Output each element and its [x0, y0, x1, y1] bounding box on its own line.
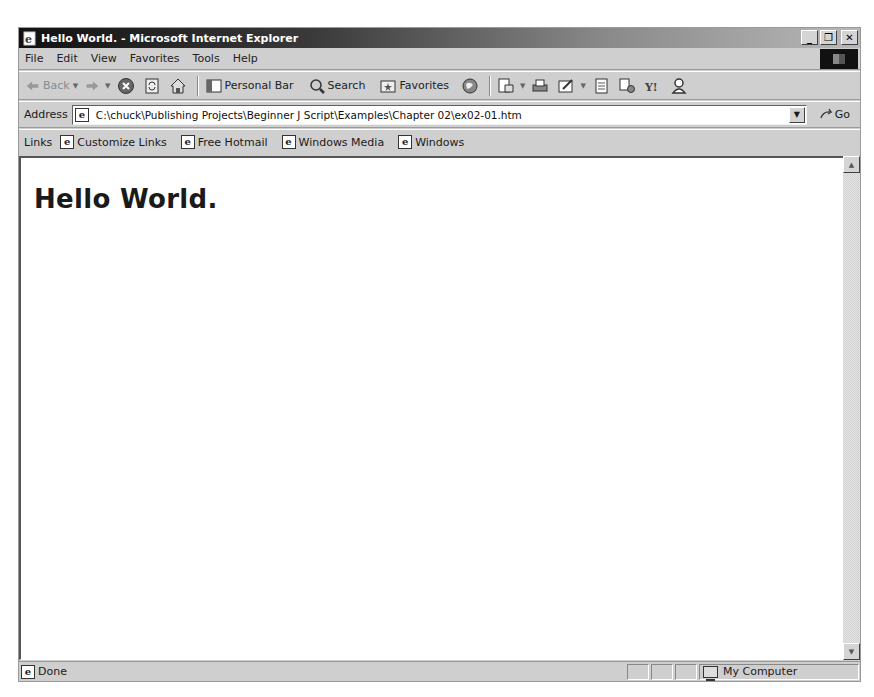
- status-progress-pane: [627, 664, 649, 680]
- ie-page-icon: e: [181, 135, 195, 149]
- vertical-scrollbar[interactable]: ▲ ▼: [843, 156, 860, 660]
- address-dropdown-button[interactable]: ▼: [789, 107, 805, 123]
- personal-bar-icon: [205, 77, 223, 95]
- link-customize-links[interactable]: e Customize Links: [60, 135, 167, 149]
- menu-bar: File Edit View Favorites Tools Help: [19, 48, 860, 70]
- svg-text:Y!: Y!: [644, 81, 658, 94]
- link-windows[interactable]: e Windows: [398, 135, 464, 149]
- go-button[interactable]: Go: [819, 108, 850, 122]
- yahoo-button[interactable]: Y!: [644, 77, 664, 95]
- address-field[interactable]: e ▼: [72, 105, 807, 125]
- ie-page-icon: e: [75, 108, 89, 122]
- user-button[interactable]: [670, 77, 690, 95]
- mail-dropdown-icon[interactable]: ▼: [520, 82, 525, 90]
- discuss-icon: [592, 77, 610, 95]
- status-zone-pane: My Computer: [699, 664, 859, 680]
- close-button[interactable]: ✕: [841, 30, 858, 45]
- menu-edit[interactable]: Edit: [56, 52, 77, 65]
- windows-logo-throbber: [820, 49, 858, 69]
- edit-button[interactable]: ▼: [557, 77, 585, 95]
- refresh-icon: [143, 77, 161, 95]
- messenger-icon: [618, 77, 636, 95]
- forward-dropdown-icon[interactable]: ▼: [105, 82, 110, 90]
- page-content: Hello World.: [19, 156, 845, 660]
- status-security-pane: [651, 664, 673, 680]
- print-button[interactable]: [531, 77, 551, 95]
- status-text-pane: e Done: [19, 662, 625, 681]
- menu-favorites[interactable]: Favorites: [130, 52, 180, 65]
- personal-bar-label: Personal Bar: [225, 79, 294, 92]
- restore-button[interactable]: ❐: [820, 30, 837, 45]
- window-title: Hello World. - Microsoft Internet Explor…: [41, 32, 298, 45]
- user-icon: [670, 77, 688, 95]
- minimize-button[interactable]: _: [801, 30, 818, 45]
- ie-page-icon: e: [21, 665, 35, 679]
- go-arrow-icon: [819, 108, 835, 122]
- svg-text:e: e: [25, 33, 32, 46]
- messenger-button[interactable]: [618, 77, 638, 95]
- status-offline-pane: [675, 664, 697, 680]
- ie-page-icon: e: [282, 135, 296, 149]
- browser-window: e Hello World. - Microsoft Internet Expl…: [18, 27, 861, 682]
- toolbar-separator: [197, 76, 199, 96]
- go-label: Go: [835, 108, 850, 121]
- address-bar: Address e ▼ Go: [19, 101, 860, 128]
- ie-page-icon: e: [22, 31, 38, 46]
- address-label: Address: [24, 108, 68, 121]
- status-bar: e Done My Computer: [19, 661, 860, 681]
- edit-dropdown-icon[interactable]: ▼: [580, 82, 585, 90]
- status-text: Done: [38, 665, 67, 678]
- menu-tools[interactable]: Tools: [193, 52, 220, 65]
- page-heading: Hello World.: [34, 184, 218, 214]
- back-icon: [25, 77, 41, 95]
- back-button[interactable]: Back ▼: [25, 77, 78, 95]
- scroll-up-button[interactable]: ▲: [843, 156, 860, 173]
- title-bar[interactable]: e Hello World. - Microsoft Internet Expl…: [19, 28, 860, 48]
- favorites-label: Favorites: [399, 79, 449, 92]
- forward-icon: [84, 77, 100, 95]
- toolbar-separator: [489, 76, 491, 96]
- home-button[interactable]: [169, 77, 189, 95]
- standard-toolbar: Back ▼ ▼ Personal Bar Search Favorites: [19, 71, 860, 100]
- scroll-down-button[interactable]: ▼: [843, 643, 860, 660]
- mail-button[interactable]: ▼: [497, 77, 525, 95]
- my-computer-icon: [703, 666, 718, 678]
- stop-icon: [117, 77, 135, 95]
- favorites-icon: [379, 77, 397, 95]
- favorites-button[interactable]: Favorites: [379, 77, 449, 95]
- address-input[interactable]: [96, 109, 786, 121]
- stop-button[interactable]: [117, 77, 137, 95]
- menu-help[interactable]: Help: [233, 52, 258, 65]
- links-bar: Links e Customize Links e Free Hotmail e…: [19, 129, 860, 154]
- print-icon: [531, 77, 549, 95]
- back-dropdown-icon[interactable]: ▼: [73, 82, 78, 90]
- history-button[interactable]: [461, 77, 481, 95]
- windows-logo-icon: [833, 54, 845, 64]
- forward-button[interactable]: ▼: [84, 77, 110, 95]
- menu-view[interactable]: View: [91, 52, 117, 65]
- personal-bar-button[interactable]: Personal Bar: [205, 77, 294, 95]
- menu-file[interactable]: File: [25, 52, 43, 65]
- ie-page-icon: e: [60, 135, 74, 149]
- discuss-button[interactable]: [592, 77, 612, 95]
- history-icon: [461, 77, 479, 95]
- refresh-button[interactable]: [143, 77, 163, 95]
- link-windows-media[interactable]: e Windows Media: [282, 135, 385, 149]
- search-icon: [308, 77, 326, 95]
- links-label: Links: [24, 136, 52, 149]
- yahoo-icon: Y!: [644, 77, 662, 95]
- link-free-hotmail[interactable]: e Free Hotmail: [181, 135, 268, 149]
- search-label: Search: [328, 79, 366, 92]
- search-button[interactable]: Search: [308, 77, 366, 95]
- mail-icon: [497, 77, 515, 95]
- status-zone-text: My Computer: [723, 665, 797, 678]
- ie-page-icon: e: [398, 135, 412, 149]
- back-label: Back: [43, 79, 70, 92]
- edit-icon: [557, 77, 575, 95]
- home-icon: [169, 77, 187, 95]
